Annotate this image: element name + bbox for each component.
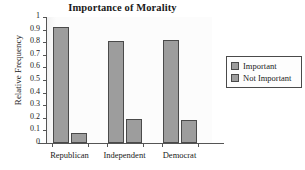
x-axis-tick-label: Democrat <box>150 150 210 160</box>
bar <box>163 40 179 143</box>
bar <box>53 27 69 143</box>
bar <box>71 133 87 143</box>
y-axis-tick-label: 0.6 <box>30 61 40 71</box>
bar <box>181 120 197 143</box>
x-axis-tick-mark <box>107 143 108 147</box>
chart-legend: ImportantNot Important <box>226 56 302 88</box>
y-axis-tick-mark <box>43 118 47 119</box>
y-axis-tick-mark <box>43 30 47 31</box>
legend-label: Important <box>243 61 277 71</box>
y-axis-tick-label: 0.5 <box>30 74 40 84</box>
y-axis-tick-label: 0.4 <box>30 87 40 97</box>
y-axis-tick-label: 0 <box>36 137 40 147</box>
x-axis-tick-mark <box>162 143 163 147</box>
y-axis-tick-mark <box>43 105 47 106</box>
y-axis-tick-label: 0.8 <box>30 36 40 46</box>
chart-title: Importance of Morality <box>30 2 215 14</box>
y-axis-tick-label: 0.3 <box>30 99 40 109</box>
y-axis-tick-label: 0.9 <box>30 24 40 34</box>
x-axis-tick-mark <box>52 143 53 147</box>
x-axis-tick-label: Independent <box>95 150 155 160</box>
y-axis-tick-mark <box>43 80 47 81</box>
y-axis-tick-mark <box>43 130 47 131</box>
legend-item: Important <box>231 60 298 72</box>
y-axis-tick-label: 0.7 <box>30 49 40 59</box>
x-axis-tick-mark <box>88 143 89 147</box>
y-axis-tick-mark <box>43 67 47 68</box>
legend-swatch-icon <box>231 62 239 70</box>
bar <box>126 119 142 143</box>
y-axis-tick-label: 0.2 <box>30 112 40 122</box>
y-axis-tick-label: 1 <box>36 11 40 21</box>
y-axis-title: Relative Frequency <box>13 10 23 130</box>
y-axis-tick-mark <box>43 17 47 18</box>
y-axis-tick-label: 0.1 <box>30 124 40 134</box>
legend-item: Not Important <box>231 72 298 84</box>
legend-swatch-icon <box>231 74 239 82</box>
x-axis-line <box>38 143 224 144</box>
chart-figure: Importance of Morality Relative Frequenc… <box>0 0 305 170</box>
y-axis-tick-mark <box>43 42 47 43</box>
x-axis-tick-label: Republican <box>40 150 100 160</box>
x-axis-tick-mark <box>143 143 144 147</box>
y-axis-tick-mark <box>43 93 47 94</box>
bar <box>108 41 124 143</box>
y-axis-tick-mark <box>43 55 47 56</box>
x-axis-tick-mark <box>198 143 199 147</box>
legend-label: Not Important <box>243 73 291 83</box>
